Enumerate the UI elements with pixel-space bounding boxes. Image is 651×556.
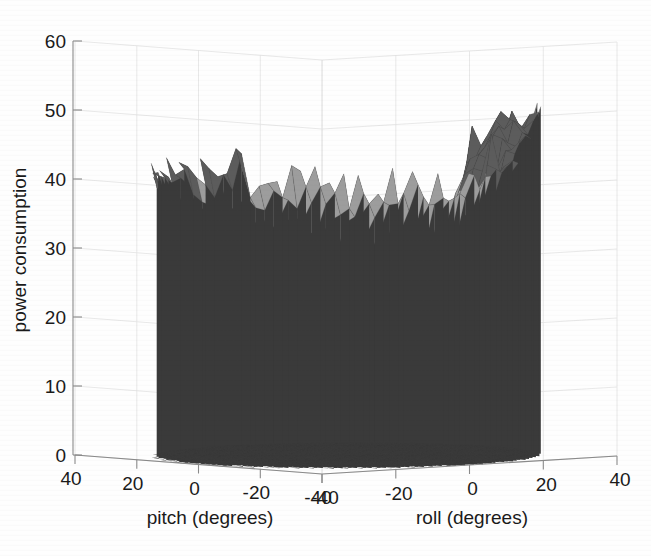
z-axis-title: power consumption [9,168,30,333]
y-tick-label: -40 [311,487,338,508]
y-tick-label: 20 [536,474,557,495]
x-tick-label: 0 [189,478,200,499]
y-axis-title: roll (degrees) [416,507,528,528]
x-axis-title: pitch (degrees) [147,507,274,528]
z-tick-label: 20 [45,307,66,328]
z-tick-label: 0 [55,445,66,466]
z-tick-label: 30 [45,238,66,259]
z-tick-label: 40 [45,169,66,190]
x-tick-label: 40 [60,468,81,489]
x-tick-label: -20 [243,482,270,503]
y-tick-label: 0 [467,478,478,499]
z-tick-label: 50 [45,100,66,121]
surface-mesh [151,103,541,469]
z-tick-label: 60 [45,31,66,52]
plot-canvas: 010203040506040200-20-40-40-2002040 pitc… [0,0,651,556]
y-tick-label: 40 [609,469,630,490]
y-tick-label: -20 [385,483,412,504]
surface-plot-figure: 010203040506040200-20-40-40-2002040 pitc… [0,0,651,556]
x-tick-label: 20 [122,473,143,494]
z-tick-label: 10 [45,376,66,397]
